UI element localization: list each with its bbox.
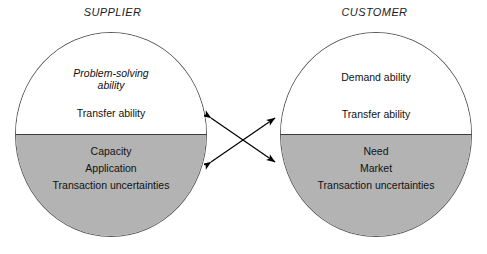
customer-need: Need [363,145,388,157]
supplier-transfer-ability: Transfer ability [77,107,145,119]
customer-transfer-ability: Transfer ability [342,108,410,120]
supplier-top-half: Problem-solving ability Transfer ability [16,33,206,134]
supplier-transaction-uncertainties: Transaction uncertainties [53,179,170,191]
supplier-heading: SUPPLIER [0,6,225,18]
supplier-problem-solving-ability: Problem-solving ability [73,67,148,91]
customer-circle: Demand ability Transfer ability Need Mar… [280,32,472,237]
customer-bottom-half: Need Market Transaction uncertainties [281,134,471,237]
customer-demand-ability: Demand ability [341,71,410,83]
supplier-application: Application [85,162,136,174]
customer-top-half: Demand ability Transfer ability [281,33,471,134]
supplier-circle: Problem-solving ability Transfer ability… [15,32,207,237]
customer-market: Market [360,162,392,174]
supplier-bottom-half: Capacity Application Transaction uncerta… [16,134,206,237]
supplier-customer-exchange-diagram: SUPPLIER CUSTOMER Problem-solving abilit… [0,0,487,254]
supplier-capacity: Capacity [91,145,132,157]
customer-transaction-uncertainties: Transaction uncertainties [318,179,435,191]
crossed-double-arrows-icon: top-right --> bottom-right --> [204,110,282,170]
customer-heading: CUSTOMER [262,6,487,18]
